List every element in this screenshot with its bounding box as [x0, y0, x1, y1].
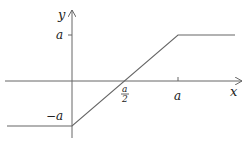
x-tick-label-half-a: a 2 — [121, 84, 129, 104]
fraction-numerator: a — [122, 84, 127, 94]
y-tick-label-a: a — [56, 28, 63, 42]
piecewise-function-diagram: y x a −a a a 2 — [0, 0, 250, 144]
y-tick-label-neg-a: −a — [46, 109, 63, 123]
fraction-denominator: 2 — [121, 94, 128, 104]
x-axis-label: x — [230, 84, 238, 99]
x-tick-label-a: a — [174, 89, 181, 103]
y-axis-label: y — [57, 7, 66, 22]
